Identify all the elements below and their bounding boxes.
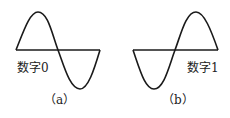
- figure-a-bit-label: 数字0: [17, 62, 49, 74]
- bpsk-diagram: [0, 0, 230, 118]
- figure-b-caption: （b）: [162, 94, 194, 106]
- figure-a-caption: （a）: [44, 94, 75, 106]
- figure-b-bit-label: 数字1: [187, 62, 219, 74]
- figure-a-waveform: [16, 12, 100, 89]
- figure-b-waveform: [133, 12, 218, 89]
